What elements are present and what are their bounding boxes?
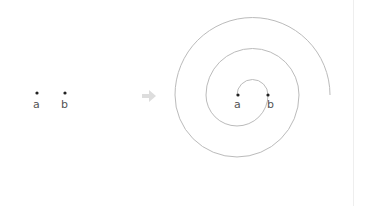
label-b-left: b: [61, 99, 68, 110]
label-a-left: a: [33, 99, 40, 110]
arrow-icon: [142, 90, 156, 102]
diagram-canvas: [0, 0, 367, 206]
spiral-curve: [175, 18, 330, 157]
point-a-left: [35, 91, 38, 94]
point-a-right: [236, 93, 239, 96]
point-b-left: [63, 91, 66, 94]
label-b-right: b: [267, 99, 274, 110]
point-b-right: [266, 93, 269, 96]
label-a-right: a: [234, 99, 241, 110]
